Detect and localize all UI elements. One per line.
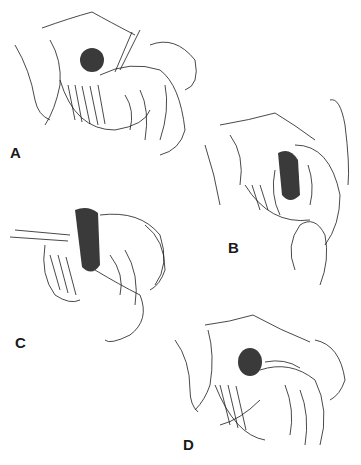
panel-b-illustration bbox=[190, 85, 361, 300]
surgical-figure: A B bbox=[0, 0, 361, 465]
panel-label-a: A bbox=[10, 145, 21, 160]
panel-label-d: D bbox=[183, 437, 194, 452]
panel-d: D bbox=[150, 300, 361, 465]
opening-dark bbox=[238, 348, 262, 376]
vessel-dark bbox=[278, 151, 300, 200]
panel-label-c: C bbox=[15, 335, 26, 350]
panel-a: A bbox=[0, 0, 200, 165]
vessel-dark bbox=[75, 208, 100, 271]
panel-d-illustration bbox=[150, 300, 361, 465]
panel-label-b: B bbox=[228, 240, 239, 255]
opening-dark bbox=[80, 48, 104, 72]
panel-a-illustration bbox=[0, 0, 200, 165]
panel-b: B bbox=[190, 85, 361, 300]
